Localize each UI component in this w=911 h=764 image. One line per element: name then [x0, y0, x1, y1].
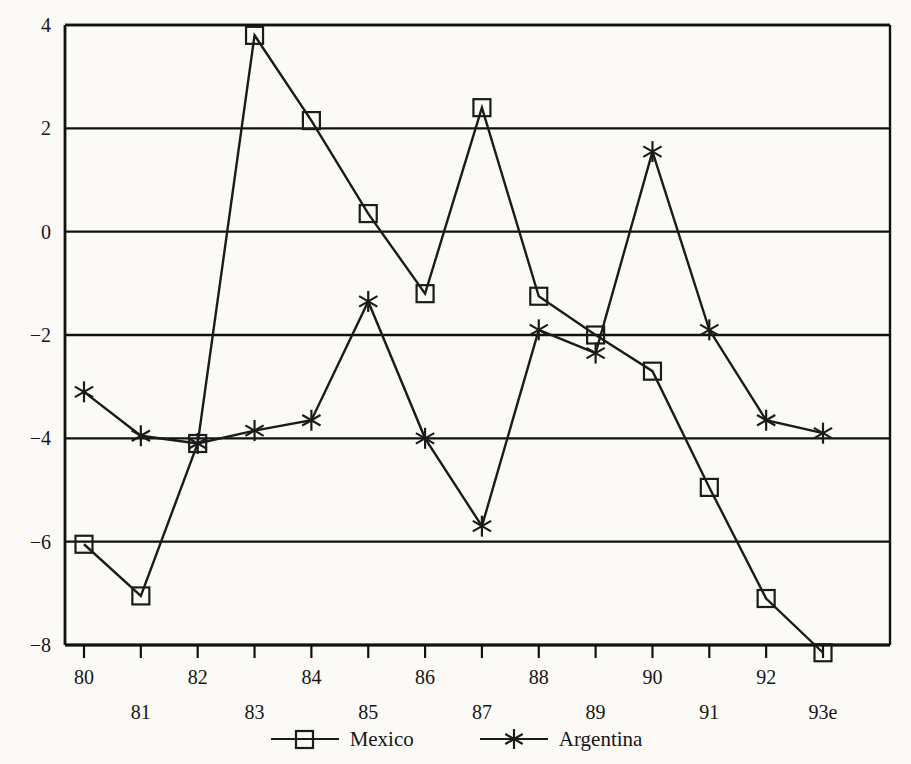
legend-entry-mexico[interactable]: Mexico	[269, 726, 414, 752]
y-tick-label: −8	[0, 635, 51, 655]
x-tick-label: 84	[271, 667, 351, 687]
gridlines-group	[65, 25, 890, 645]
y-tick-label: −6	[0, 532, 51, 552]
legend-marker-open-square-icon	[269, 726, 341, 752]
x-tick-label: 86	[385, 667, 465, 687]
y-tick-label: −4	[0, 428, 51, 448]
x-tick-label: 92	[726, 667, 806, 687]
chart-plot-area	[0, 0, 911, 764]
y-tick-label: −2	[0, 325, 51, 345]
y-tick-label: 4	[0, 15, 51, 35]
x-tick-label: 88	[499, 667, 579, 687]
x-tick-label: 80	[44, 667, 124, 687]
x-tick-marks	[84, 645, 823, 658]
data-series-layer	[75, 27, 832, 661]
y-tick-label: 2	[0, 118, 51, 138]
legend-label-argentina: Argentina	[559, 729, 643, 750]
chart-legend: Mexico Argentina	[0, 716, 911, 762]
legend-label-mexico: Mexico	[350, 729, 414, 750]
legend-marker-asterisk-icon	[478, 726, 550, 752]
y-tick-label: 0	[0, 222, 51, 242]
chart-figure: 420−2−4−6−8 8081828384858687888990919293…	[0, 0, 911, 764]
x-tick-label: 82	[158, 667, 238, 687]
legend-entry-argentina[interactable]: Argentina	[478, 726, 643, 752]
x-tick-label: 90	[612, 667, 692, 687]
